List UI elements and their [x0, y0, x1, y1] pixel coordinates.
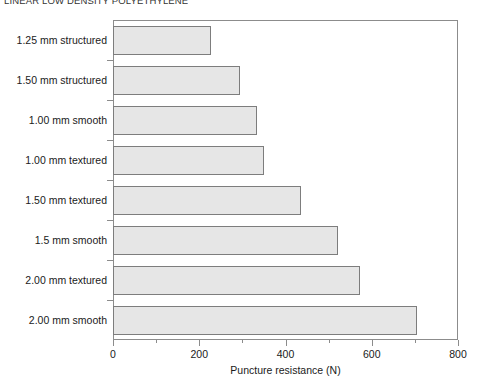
x-axis-tick-label: 800	[438, 348, 478, 360]
y-axis-tick	[107, 140, 113, 141]
y-axis-label: 1.5 mm smooth	[35, 234, 107, 246]
x-axis-minor-tick	[415, 340, 416, 343]
bar-row	[113, 26, 458, 55]
bar-row	[113, 306, 458, 335]
y-axis-label: 2.00 mm smooth	[29, 314, 107, 326]
bar	[113, 306, 417, 335]
bar-series	[113, 20, 458, 340]
x-axis-tick	[286, 340, 287, 346]
y-axis-label: 2.00 mm textured	[25, 274, 107, 286]
x-axis-tick-label: 400	[266, 348, 306, 360]
x-axis-tick	[372, 340, 373, 346]
x-axis-tick	[458, 340, 459, 346]
y-axis-tick	[107, 260, 113, 261]
x-axis-tick-label: 0	[93, 348, 133, 360]
bar	[113, 146, 264, 175]
x-axis-tick-label: 600	[352, 348, 392, 360]
x-axis-minor-tick	[329, 340, 330, 343]
y-axis-tick	[107, 100, 113, 101]
chart-figure: LINEAR LOW DENSITY POLYETHYLENE 1.25 mm …	[0, 0, 480, 387]
y-axis-tick	[107, 220, 113, 221]
y-axis-tick	[107, 300, 113, 301]
x-axis-minor-tick	[156, 340, 157, 343]
bar	[113, 266, 360, 295]
bar	[113, 106, 257, 135]
bar-row	[113, 146, 458, 175]
x-axis-tick-label: 200	[179, 348, 219, 360]
bar-row	[113, 106, 458, 135]
bar-row	[113, 66, 458, 95]
bar-row	[113, 266, 458, 295]
y-axis-label: 1.50 mm textured	[25, 194, 107, 206]
bar-row	[113, 186, 458, 215]
bar	[113, 186, 301, 215]
x-axis-tick	[113, 340, 114, 346]
bar-row	[113, 226, 458, 255]
y-axis-label: 1.00 mm smooth	[29, 114, 107, 126]
y-axis-tick	[107, 60, 113, 61]
y-axis-tick	[107, 180, 113, 181]
bar	[113, 66, 240, 95]
y-axis-label: 1.25 mm structured	[17, 34, 107, 46]
x-axis-tick	[199, 340, 200, 346]
bar	[113, 226, 338, 255]
y-axis-label: 1.50 mm structured	[17, 74, 107, 86]
y-axis-label: 1.00 mm textured	[25, 154, 107, 166]
bar	[113, 26, 211, 55]
x-axis-minor-tick	[242, 340, 243, 343]
x-axis-title: Puncture resistance (N)	[113, 364, 458, 376]
chart-title: LINEAR LOW DENSITY POLYETHYLENE	[4, 0, 188, 6]
